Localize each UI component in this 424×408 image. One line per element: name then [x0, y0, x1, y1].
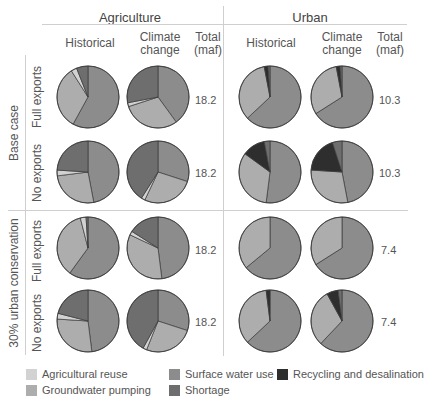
row-label-base-no: No exports: [30, 133, 44, 213]
total-ag-cons-no: 18.2: [195, 316, 216, 328]
pie-urban-conservation-full-climate: [309, 215, 375, 281]
total-urb-base-no: 10.3: [379, 167, 400, 179]
subheader-urb-total-line2: (maf): [370, 44, 410, 57]
pie-slice-groundwater-pumping: [57, 172, 94, 203]
subheader-urb-climate-line2: change: [307, 44, 377, 57]
pie-slice-shortage: [127, 66, 158, 103]
pie-agriculture-base-full-climate: [125, 64, 191, 130]
row-label-cons-full: Full exports: [30, 211, 44, 291]
subheader-ag-historical: Historical: [55, 37, 125, 50]
total-urb-cons-no: 7.4: [381, 316, 396, 328]
legend-swatch-recycling-desalination: [277, 369, 288, 380]
row-group-divider: [25, 55, 26, 355]
pie-agriculture-base-full-historical: [55, 64, 121, 130]
pie-slice-surface-water-use: [266, 141, 301, 203]
subheader-ag-climate: Climate change: [125, 31, 195, 57]
pie-slice-shortage: [57, 141, 88, 172]
subheader-ag-total: Total (maf): [188, 31, 228, 57]
legend-label: Agricultural reuse: [42, 368, 128, 380]
legend-label: Shortage: [185, 384, 230, 396]
legend-swatch-groundwater-pumping: [26, 385, 37, 396]
legend-shortage: Shortage: [169, 384, 230, 396]
pie-slice-groundwater-pumping: [57, 319, 92, 352]
total-ag-base-full: 18.2: [195, 94, 216, 106]
pie-slice-surface-water-use: [342, 141, 373, 202]
pie-slice-surface-water-use: [88, 141, 119, 202]
legend-label: Recycling and desalination: [293, 368, 424, 380]
legend-recycling-desalination: Recycling and desalination: [277, 368, 424, 380]
pie-urban-conservation-full-historical: [237, 215, 303, 281]
pie-urban-base-no-climate: [309, 139, 375, 205]
legend-swatch-shortage: [169, 385, 180, 396]
legend-groundwater-pumping: Groundwater pumping: [26, 384, 151, 396]
pie-agriculture-base-no-climate: [125, 139, 191, 205]
subheader-urb-historical: Historical: [236, 37, 306, 50]
pie-urban-conservation-no-climate: [309, 288, 375, 354]
pie-agriculture-conservation-no-historical: [55, 288, 121, 354]
row-label-conservation: 30% urban conservation: [7, 213, 21, 353]
subheader-ag-climate-line2: change: [125, 44, 195, 57]
pie-urban-base-full-historical: [237, 64, 303, 130]
legend-swatch-surface-water-use: [169, 369, 180, 380]
pie-slice-surface-water-use: [158, 217, 189, 279]
pie-urban-conservation-no-historical: [237, 288, 303, 354]
header-underline: [42, 24, 407, 25]
subheader-urb-total: Total (maf): [370, 31, 410, 57]
pie-urban-base-no-historical: [237, 139, 303, 205]
pie-slice-groundwater-pumping: [311, 170, 348, 203]
row-label-base-full: Full exports: [30, 57, 44, 137]
row-label-base-case: Base case: [7, 93, 21, 173]
header-agriculture: Agriculture: [60, 10, 200, 25]
row-label-cons-no: No exports: [30, 283, 44, 363]
total-ag-base-no: 18.2: [195, 167, 216, 179]
total-ag-cons-full: 18.2: [195, 244, 216, 256]
pie-urban-base-full-climate: [309, 64, 375, 130]
legend-label: Surface water use: [185, 368, 274, 380]
pie-agriculture-base-no-historical: [55, 139, 121, 205]
pie-agriculture-conservation-no-climate: [125, 288, 191, 354]
subheader-ag-total-line2: (maf): [188, 44, 228, 57]
legend-surface-water-use: Surface water use: [169, 368, 274, 380]
sector-divider: [223, 6, 224, 356]
legend-agricultural-reuse: Agricultural reuse: [26, 368, 128, 380]
pie-agriculture-conservation-full-historical: [55, 215, 121, 281]
pie-agriculture-conservation-full-climate: [125, 215, 191, 281]
total-urb-base-full: 10.3: [379, 94, 400, 106]
case-divider: [8, 210, 408, 211]
legend-label: Groundwater pumping: [42, 384, 151, 396]
subheader-urb-climate: Climate change: [307, 31, 377, 57]
legend-swatch-agricultural-reuse: [26, 369, 37, 380]
header-urban: Urban: [235, 10, 385, 25]
pie-slice-surface-water-use: [88, 290, 119, 352]
total-urb-cons-full: 7.4: [381, 244, 396, 256]
